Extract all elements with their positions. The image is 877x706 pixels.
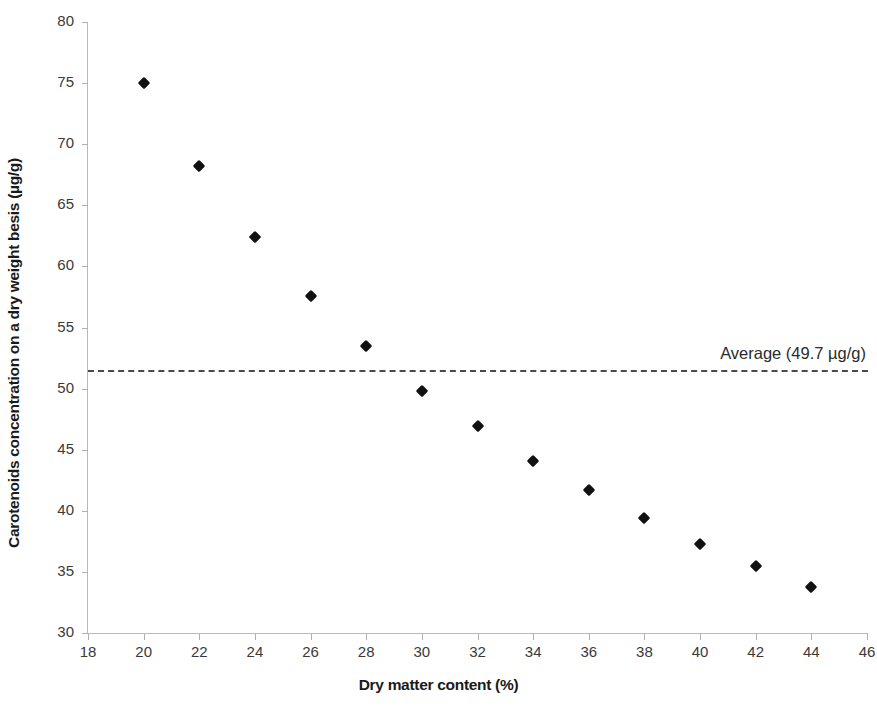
x-tick-mark (700, 634, 701, 640)
x-tick-mark (867, 634, 868, 640)
y-tick-label: 60 (26, 256, 74, 273)
y-tick-mark (82, 22, 88, 23)
x-tick-mark (644, 634, 645, 640)
x-tick-label: 26 (291, 643, 331, 660)
y-tick-label: 65 (26, 195, 74, 212)
x-tick-mark (589, 634, 590, 640)
average-line-label: Average (49.7 µg/g) (600, 344, 866, 363)
y-tick-mark (82, 144, 88, 145)
y-tick-mark (82, 511, 88, 512)
y-tick-mark (82, 389, 88, 390)
x-tick-mark (533, 634, 534, 640)
y-tick-label: 75 (26, 73, 74, 90)
y-tick-label: 50 (26, 379, 74, 396)
y-tick-mark (82, 572, 88, 573)
data-point (360, 339, 373, 352)
y-tick-mark (82, 205, 88, 206)
x-tick-label: 20 (124, 643, 164, 660)
y-tick-label: 55 (26, 318, 74, 335)
y-tick-mark (82, 328, 88, 329)
x-tick-mark (144, 634, 145, 640)
y-tick-label: 35 (26, 562, 74, 579)
x-tick-mark (756, 634, 757, 640)
x-tick-mark (366, 634, 367, 640)
data-point (415, 385, 428, 398)
x-tick-label: 24 (235, 643, 275, 660)
y-tick-label: 70 (26, 134, 74, 151)
data-point (249, 231, 262, 244)
data-point (805, 580, 818, 593)
x-tick-mark (255, 634, 256, 640)
data-point (304, 289, 317, 302)
y-tick-mark (82, 266, 88, 267)
x-tick-label: 46 (847, 643, 877, 660)
x-tick-mark (88, 634, 89, 640)
x-tick-label: 40 (680, 643, 720, 660)
x-axis-title: Dry matter content (%) (0, 676, 877, 694)
x-tick-mark (199, 634, 200, 640)
y-axis-title: Carotenoids concentration on a dry weigh… (0, 0, 28, 706)
data-point (582, 484, 595, 497)
x-tick-label: 42 (736, 643, 776, 660)
x-tick-label: 34 (513, 643, 553, 660)
x-tick-label: 38 (624, 643, 664, 660)
data-point (638, 512, 651, 525)
data-point (527, 454, 540, 467)
x-tick-mark (422, 634, 423, 640)
y-tick-label: 80 (26, 12, 74, 29)
y-tick-label: 45 (26, 440, 74, 457)
y-tick-mark (82, 450, 88, 451)
y-tick-label: 40 (26, 501, 74, 518)
y-tick-mark (82, 83, 88, 84)
data-point (471, 420, 484, 433)
x-tick-label: 18 (68, 643, 108, 660)
data-point (694, 537, 707, 550)
x-tick-label: 28 (346, 643, 386, 660)
x-tick-label: 22 (179, 643, 219, 660)
y-tick-label: 30 (26, 623, 74, 640)
scatter-chart-figure: Carotenoids concentration on a dry weigh… (0, 0, 877, 706)
x-tick-label: 36 (569, 643, 609, 660)
x-tick-label: 44 (791, 643, 831, 660)
data-point (749, 559, 762, 572)
x-tick-label: 32 (458, 643, 498, 660)
data-point (193, 160, 206, 173)
x-tick-mark (311, 634, 312, 640)
average-reference-line (88, 370, 868, 372)
x-tick-mark (811, 634, 812, 640)
data-point (137, 77, 150, 90)
x-tick-mark (478, 634, 479, 640)
x-tick-label: 30 (402, 643, 442, 660)
